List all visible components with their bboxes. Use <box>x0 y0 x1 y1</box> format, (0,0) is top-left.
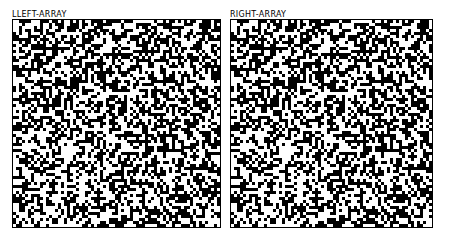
right-random-dot-array <box>230 19 433 228</box>
left-random-dot-array <box>12 19 221 228</box>
left-array-title: LLEFT-ARRAY <box>12 10 221 19</box>
left-array-panel: LLEFT-ARRAY <box>12 10 221 228</box>
right-array-panel: RIGHT-ARRAY <box>230 10 433 228</box>
right-array-title: RIGHT-ARRAY <box>230 10 433 19</box>
